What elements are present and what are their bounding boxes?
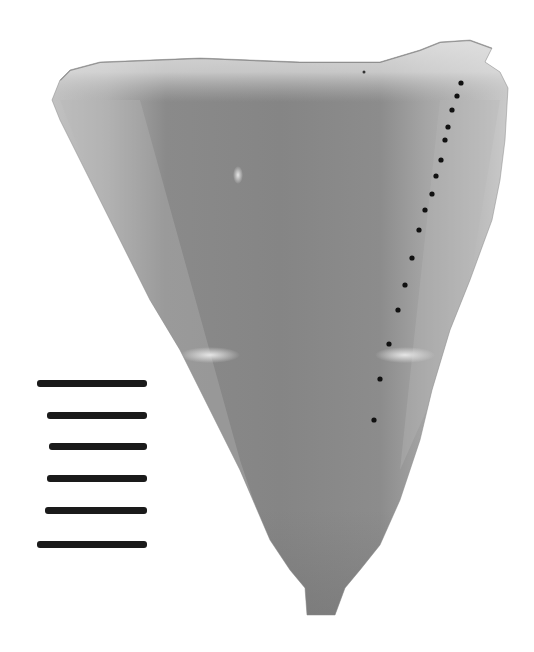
measurement-dot — [416, 227, 421, 232]
measurement-dot — [386, 341, 391, 346]
measurement-dot — [402, 282, 407, 287]
measurement-dot — [433, 173, 438, 178]
measurement-dot — [422, 207, 427, 212]
measurement-dot — [454, 93, 459, 98]
measurement-dot — [458, 80, 463, 85]
scale-bar-tick — [37, 541, 147, 548]
measurement-dot — [449, 107, 454, 112]
scale-bar-tick — [47, 412, 147, 419]
measurement-dot — [377, 376, 382, 381]
measurement-dot — [445, 124, 450, 129]
scale-bar-tick — [45, 507, 147, 514]
specimen-photo — [0, 0, 534, 652]
measurement-dot — [371, 417, 376, 422]
measurement-dot — [438, 157, 443, 162]
measurement-dot — [395, 307, 400, 312]
measurement-dot — [409, 255, 414, 260]
scale-bar-tick — [37, 380, 147, 387]
measurement-dot — [429, 191, 434, 196]
measurement-dot — [442, 137, 447, 142]
tooth-section — [40, 30, 520, 630]
scale-bar-tick — [49, 443, 147, 450]
scale-bar-tick — [47, 475, 147, 482]
